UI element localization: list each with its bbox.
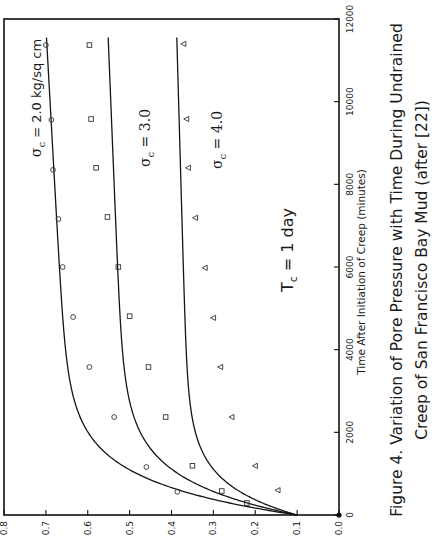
svg-text:10000: 10000 xyxy=(345,87,355,116)
svg-text:0.7: 0.7 xyxy=(41,521,51,535)
svg-text:0.8: 0.8 xyxy=(0,521,9,536)
value-tick-label: 0.3 xyxy=(208,521,218,535)
triangle-marker xyxy=(275,488,280,493)
triangle-marker xyxy=(202,265,207,270)
circle-marker xyxy=(51,167,56,172)
time-axis-title: Time After Initiation of Creep (minutes) xyxy=(355,169,367,376)
series-label-sigma-3: σc = 3.0 xyxy=(137,109,156,167)
time-tick-label: 10000 xyxy=(345,87,355,116)
svg-text:6000: 6000 xyxy=(345,255,355,278)
svg-text:0.4: 0.4 xyxy=(167,521,177,536)
square-marker xyxy=(163,415,168,420)
value-tick-label: 0.0 xyxy=(334,521,344,536)
svg-text:Time After Initiation of Creep: Time After Initiation of Creep (minutes) xyxy=(355,169,367,376)
svg-text:0.2: 0.2 xyxy=(250,521,260,535)
svg-text:σc = 2.0 kg/sq cm: σc = 2.0 kg/sq cm xyxy=(28,39,47,157)
svg-text:0.5: 0.5 xyxy=(125,521,135,535)
square-marker xyxy=(219,489,224,494)
value-tick-label: 0.7 xyxy=(41,521,51,535)
origin-dot xyxy=(336,512,341,517)
svg-text:0.3: 0.3 xyxy=(208,521,218,535)
square-marker xyxy=(190,464,195,469)
svg-text:0.6: 0.6 xyxy=(83,521,93,536)
triangle-marker xyxy=(181,41,186,46)
circle-marker xyxy=(87,365,92,370)
square-marker xyxy=(105,215,110,220)
value-tick-label: 0.4 xyxy=(167,521,177,536)
time-tick-label: 4000 xyxy=(345,338,355,361)
value-tick-label: 0.8 xyxy=(0,521,9,536)
square-marker xyxy=(87,43,92,48)
square-marker xyxy=(127,314,132,319)
svg-text:0.0: 0.0 xyxy=(334,521,344,536)
time-tick-label: 6000 xyxy=(345,255,355,278)
svg-text:12000: 12000 xyxy=(345,4,355,33)
circle-marker xyxy=(60,265,65,270)
value-tick-label: 0.1 xyxy=(292,521,302,535)
time-tick-label: 12000 xyxy=(345,4,355,33)
time-tick-label: 0 xyxy=(345,512,355,518)
time-axis-ticks: 020004000600080001000012000 xyxy=(334,4,355,517)
svg-text:σc = 4.0: σc = 4.0 xyxy=(209,111,228,169)
triangle-marker xyxy=(218,364,223,369)
circle-marker xyxy=(144,465,149,470)
square-marker xyxy=(146,365,151,370)
fit-curve-series-1 xyxy=(46,38,297,515)
svg-text:Figure 4. Variation of Pore Pr: Figure 4. Variation of Pore Pressure wit… xyxy=(388,23,406,517)
annotation-tc-1-day: Tc = 1 day xyxy=(278,208,300,293)
svg-text:σc = 3.0: σc = 3.0 xyxy=(137,109,156,167)
triangle-marker xyxy=(185,165,190,170)
series-label-sigma-4: σc = 4.0 xyxy=(209,111,228,169)
value-tick-label: 0.5 xyxy=(125,521,135,535)
value-tick-label: 0.2 xyxy=(250,521,260,535)
figure-4-pore-pressure-chart: 0.00.10.20.30.40.50.60.70.8 020004000600… xyxy=(0,0,433,540)
circle-marker xyxy=(71,315,76,320)
svg-text:0.1: 0.1 xyxy=(292,521,302,535)
triangle-marker xyxy=(193,215,198,220)
svg-text:4000: 4000 xyxy=(345,338,355,361)
triangle-marker xyxy=(184,116,189,121)
figure-caption-line-2: Creep of San Francisco Bay Mud (after [2… xyxy=(413,100,431,440)
svg-text:8000: 8000 xyxy=(345,173,355,196)
series-label-sigma-2: σc = 2.0 kg/sq cm xyxy=(28,39,47,157)
circle-marker xyxy=(112,415,117,420)
triangle-marker xyxy=(211,315,216,320)
data-markers xyxy=(43,41,280,505)
square-marker xyxy=(89,117,94,122)
svg-text:Creep of San Francisco Bay Mud: Creep of San Francisco Bay Mud (after [2… xyxy=(413,100,431,440)
figure-caption-line-1: Figure 4. Variation of Pore Pressure wit… xyxy=(388,23,406,517)
time-tick-label: 2000 xyxy=(345,421,355,444)
fitted-curves xyxy=(46,38,297,515)
triangle-marker xyxy=(252,463,257,468)
svg-text:0: 0 xyxy=(345,512,355,518)
value-tick-label: 0.6 xyxy=(83,521,93,536)
square-marker xyxy=(94,166,99,171)
triangle-marker xyxy=(229,414,234,419)
svg-text:2000: 2000 xyxy=(345,421,355,444)
time-tick-label: 8000 xyxy=(345,173,355,196)
svg-text:Tc = 1 day: Tc = 1 day xyxy=(278,208,300,293)
